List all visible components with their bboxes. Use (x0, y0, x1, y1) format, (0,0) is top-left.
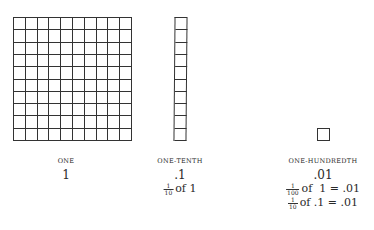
grid-cell (26, 55, 38, 67)
grid-cell (73, 92, 85, 104)
grid-cell (85, 43, 97, 55)
grid-cell (73, 55, 85, 67)
grid-cell (85, 104, 97, 116)
grid-cell (97, 80, 109, 92)
grid-cell (61, 104, 73, 116)
grid-cell (26, 104, 38, 116)
grid-cell (73, 67, 85, 79)
grid-cell (175, 80, 187, 92)
grid-cell (97, 92, 109, 104)
grid-cell (14, 67, 26, 79)
grid-cell (61, 43, 73, 55)
grid-cell (14, 116, 26, 128)
grid-cell (97, 43, 109, 55)
fraction: 110 (164, 183, 174, 196)
grid-cell (49, 55, 61, 67)
fraction: 1100 (286, 183, 299, 196)
grid-cell (61, 129, 73, 141)
grid-one-hundredth (317, 128, 330, 141)
grid-cell (14, 104, 26, 116)
grid-cell (85, 116, 97, 128)
grid-cell (108, 18, 120, 30)
grid-cell (61, 18, 73, 30)
grid-cell (108, 129, 120, 141)
grid-cell (108, 67, 120, 79)
grid-cell (38, 43, 50, 55)
grid-cell (175, 18, 187, 30)
grid-cell (73, 129, 85, 141)
grid-cell (108, 116, 120, 128)
grid-cell (73, 116, 85, 128)
value-one-tenth: .1 (174, 168, 185, 182)
grid-cell (61, 30, 73, 42)
grid-cell (120, 55, 132, 67)
grid-cell (174, 129, 186, 141)
grid-cell (97, 129, 109, 141)
grid-cell (38, 18, 50, 30)
grid-cell (49, 104, 61, 116)
grid-cell (38, 116, 50, 128)
grid-cell (14, 80, 26, 92)
expression-tenth-of-one: 110of 1 (164, 182, 197, 196)
grid-cell (73, 43, 85, 55)
grid-cell (38, 80, 50, 92)
grid-cell (49, 43, 61, 55)
grid-one-whole (13, 17, 132, 141)
grid-cell (120, 43, 132, 55)
grid-cell (49, 116, 61, 128)
grid-cell (26, 30, 38, 42)
grid-cell (120, 116, 132, 128)
grid-cell (14, 55, 26, 67)
grid-cell (49, 67, 61, 79)
grid-cell (61, 67, 73, 79)
grid-cell (175, 43, 187, 55)
expression-hundredth-of-one: 1100of 1 = .01 (286, 182, 360, 196)
grid-cell (120, 80, 132, 92)
value-one: 1 (62, 168, 70, 182)
grid-cell (85, 67, 97, 79)
grid-cell (14, 92, 26, 104)
grid-cell (38, 67, 50, 79)
grid-cell (38, 92, 50, 104)
grid-cell (120, 18, 132, 30)
grid-cell (26, 43, 38, 55)
grid-cell (38, 30, 50, 42)
grid-cell (108, 55, 120, 67)
grid-cell (73, 18, 85, 30)
grid-cell (14, 43, 26, 55)
grid-cell (175, 67, 187, 79)
grid-cell (14, 129, 26, 141)
grid-cell (85, 55, 97, 67)
grid-cell (175, 92, 187, 104)
expression-tenth-of-tenth: 110of .1 = .01 (288, 196, 358, 210)
grid-cell (108, 43, 120, 55)
grid-cell (26, 92, 38, 104)
grid-cell (61, 116, 73, 128)
grid-cell (120, 30, 132, 42)
grid-cell (26, 80, 38, 92)
grid-one-tenth (173, 17, 187, 141)
grid-cell (38, 104, 50, 116)
grid-cell (61, 92, 73, 104)
grid-cell (49, 92, 61, 104)
grid-cell (85, 80, 97, 92)
grid-cell (108, 92, 120, 104)
grid-cell (61, 55, 73, 67)
grid-cell (108, 80, 120, 92)
grid-cell (318, 129, 330, 141)
grid-cell (38, 129, 50, 141)
grid-cell (120, 92, 132, 104)
grid-cell (49, 80, 61, 92)
grid-cell (73, 104, 85, 116)
grid-cell (97, 55, 109, 67)
grid-cell (49, 30, 61, 42)
grid-cell (97, 116, 109, 128)
grid-cell (120, 67, 132, 79)
value-one-hundredth: .01 (313, 168, 332, 182)
grid-cell (120, 104, 132, 116)
grid-cell (175, 55, 187, 67)
grid-cell (73, 30, 85, 42)
grid-cell (97, 18, 109, 30)
grid-cell (175, 30, 187, 42)
grid-cell (120, 129, 132, 141)
